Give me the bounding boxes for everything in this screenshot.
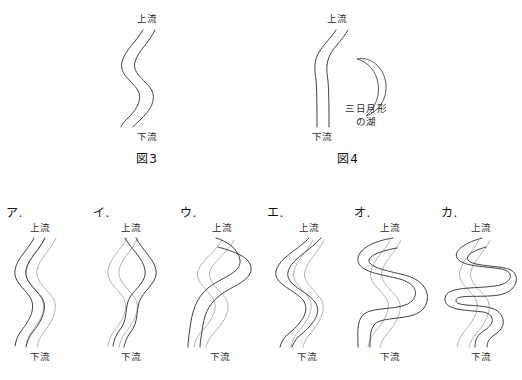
fig3-downstream-label: 下流 [129,131,165,142]
option-f[interactable]: カ. 上流 下流 [435,198,522,380]
option-c-letter: ウ. [180,203,197,220]
option-f-old-right-bank [469,240,490,347]
fig4-upstream-label: 上流 [319,13,355,24]
option-c-upstream-label: 上流 [204,222,240,233]
option-e[interactable]: オ. 上流 下流 [348,198,435,380]
option-c-drawing [178,236,262,348]
oxbow-lake-label: 三日月形 の湖 [330,103,402,129]
option-f-new-left-bank [445,238,511,347]
fig3-left-bank [121,30,143,127]
option-a-letter: ア. [6,203,23,220]
option-e-letter: オ. [354,203,371,220]
fig3-right-bank [133,30,155,127]
option-e-drawing [350,236,436,348]
option-a-old-left-bank [26,238,45,346]
option-d[interactable]: エ. 上流 下流 [261,198,348,380]
option-f-letter: カ. [441,203,458,220]
option-b-old-left-bank [108,238,127,346]
option-b-upstream-label: 上流 [113,222,149,233]
option-a[interactable]: ア. 上流 下流 [0,198,87,380]
option-a-new-left-bank [15,238,34,346]
option-e-upstream-label: 上流 [372,222,408,233]
option-b-downstream-label: 下流 [113,351,149,362]
option-d-upstream-label: 上流 [291,222,327,233]
option-f-new-right-bank [456,247,516,347]
option-e-new-right-bank [369,248,428,347]
option-d-old-left-bank [291,240,313,347]
option-c-old-left-bank [194,240,222,347]
option-c-new-left-bank [188,238,240,347]
option-c-new-right-bank [200,247,251,347]
option-a-upstream-label: 上流 [22,222,58,233]
fig3-river-drawing [100,28,210,128]
option-d-drawing [265,236,349,348]
fig4-caption: 図4 [326,149,370,166]
option-d-letter: エ. [267,203,284,220]
option-a-old-right-bank [37,238,56,347]
option-a-drawing [4,236,84,348]
option-b[interactable]: イ. 上流 下流 [87,198,174,380]
option-c-downstream-label: 下流 [202,351,238,362]
fig4-downstream-label: 下流 [304,131,340,142]
fig3-caption: 図3 [125,149,169,166]
option-f-upstream-label: 上流 [463,222,499,233]
option-b-new-left-bank [113,238,145,346]
option-c[interactable]: ウ. 上流 下流 [174,198,261,380]
oxbow-lake-label-line-2: の湖 [330,116,402,129]
option-b-old-right-bank [119,238,138,347]
option-a-new-right-bank [26,238,45,347]
option-b-letter: イ. [93,203,110,220]
fig3-upstream-label: 上流 [129,13,165,24]
option-e-old-right-bank [380,240,401,347]
option-a-downstream-label: 下流 [22,351,58,362]
option-b-drawing [91,236,173,348]
option-b-new-right-bank [124,238,156,347]
option-e-new-left-bank [358,238,416,347]
option-f-downstream-label: 下流 [463,351,499,362]
oxbow-lake-label-line-1: 三日月形 [330,103,402,116]
option-c-old-right-bank [206,240,234,347]
option-d-downstream-label: 下流 [289,351,325,362]
option-f-drawing [437,236,522,348]
option-e-downstream-label: 下流 [372,351,408,362]
